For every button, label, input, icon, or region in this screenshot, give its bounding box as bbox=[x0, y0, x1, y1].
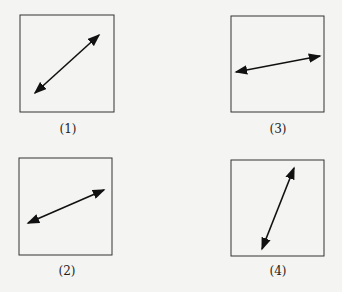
double-arrow bbox=[262, 168, 294, 249]
double-arrow bbox=[35, 35, 99, 93]
panel-label: (1) bbox=[48, 122, 88, 136]
double-arrow bbox=[236, 56, 320, 72]
panel-label: (2) bbox=[47, 264, 87, 278]
panel-label: (4) bbox=[258, 264, 298, 278]
double-arrow bbox=[28, 190, 104, 223]
panel-label: (3) bbox=[258, 122, 298, 136]
diagram-canvas bbox=[0, 0, 342, 292]
